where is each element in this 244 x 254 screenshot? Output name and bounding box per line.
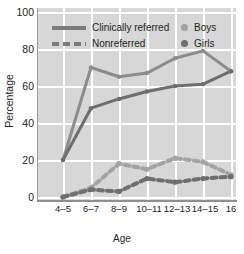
y-tick-100: 100 xyxy=(4,7,34,17)
solid-line-swatch-icon xyxy=(52,26,86,30)
data-point xyxy=(117,97,121,101)
girls-dot-icon xyxy=(181,40,188,47)
data-point xyxy=(228,174,233,179)
data-point xyxy=(117,75,121,79)
data-point xyxy=(229,69,233,73)
series-line xyxy=(63,51,231,160)
data-point xyxy=(173,84,177,88)
data-point xyxy=(116,161,121,166)
data-point xyxy=(88,187,93,192)
data-point xyxy=(200,176,205,181)
legend-item-clinically-referred: Clinically referred xyxy=(52,22,169,33)
legend-item-nonreferred: Nonreferred xyxy=(52,38,145,49)
y-tick-20: 20 xyxy=(4,155,34,165)
y-axis-line xyxy=(37,8,38,201)
data-point xyxy=(61,158,65,162)
data-point xyxy=(116,189,121,194)
chart-legend: Clinically referred Nonreferred Boys Gir… xyxy=(52,22,232,52)
y-tick-80: 80 xyxy=(4,44,34,54)
legend-label-nonreferred: Nonreferred xyxy=(92,38,145,49)
series-line xyxy=(63,71,231,160)
legend-label-girls: Girls xyxy=(194,38,215,49)
data-point xyxy=(201,82,205,86)
data-point xyxy=(60,194,65,199)
legend-label-boys: Boys xyxy=(194,22,216,33)
data-point xyxy=(145,71,149,75)
y-axis-title: Percentage xyxy=(3,61,15,141)
data-point xyxy=(172,156,177,161)
data-point xyxy=(89,65,93,69)
data-point xyxy=(145,89,149,93)
x-axis-line xyxy=(37,200,237,202)
x-axis-title: Age xyxy=(0,233,244,244)
boys-dot-icon xyxy=(181,24,188,31)
legend-item-boys: Boys xyxy=(181,22,216,33)
y-tick-0: 0 xyxy=(4,192,34,202)
data-point xyxy=(200,159,205,164)
dashed-line-swatch-icon xyxy=(52,42,86,46)
x-tick-16: 16 xyxy=(211,203,244,214)
data-point xyxy=(172,180,177,185)
chart-container: 100 80 60 40 20 0 4–5 6–7 8–9 10–11 12–1… xyxy=(0,0,244,254)
data-point xyxy=(89,106,93,110)
legend-item-girls: Girls xyxy=(181,38,215,49)
data-point xyxy=(144,176,149,181)
data-point xyxy=(144,167,149,172)
legend-label-clinically-referred: Clinically referred xyxy=(92,22,169,33)
data-point xyxy=(173,56,177,60)
